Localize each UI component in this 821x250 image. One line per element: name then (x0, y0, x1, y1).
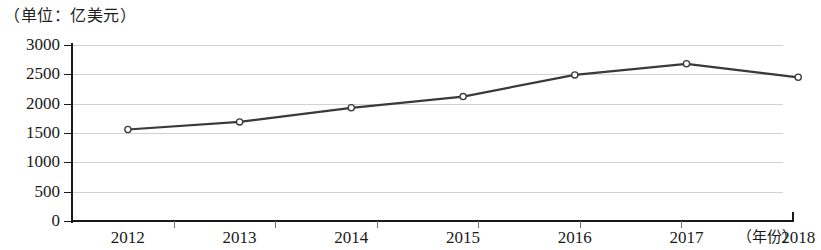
data-point-marker (237, 119, 243, 125)
data-point-marker (572, 72, 578, 78)
line-chart: （单位：亿美元） 050010001500200025003000 201220… (0, 0, 821, 250)
data-point-marker (125, 126, 131, 132)
data-series-layer (0, 0, 821, 250)
data-point-marker (683, 61, 689, 67)
data-point-marker (795, 74, 801, 80)
data-point-marker (348, 105, 354, 111)
data-point-marker (460, 94, 466, 100)
